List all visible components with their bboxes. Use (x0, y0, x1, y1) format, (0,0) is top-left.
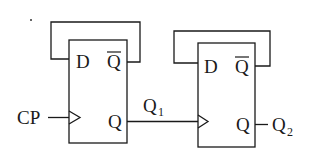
q2-label: Q 2 (272, 114, 293, 139)
ff1-d-label: D (76, 51, 90, 72)
stray-mark (30, 19, 32, 21)
svg-text:Q: Q (143, 95, 157, 116)
q1-label: Q 1 (143, 95, 164, 119)
svg-text:2: 2 (287, 125, 293, 139)
ff2-clock-triangle-icon (198, 115, 208, 128)
cp-label: CP (17, 107, 40, 128)
ff2-d-label: D (204, 56, 218, 77)
circuit-diagram: D Q Q CP Q 1 D Q Q Q 2 (0, 0, 314, 163)
flipflop-1: D Q Q (48, 22, 198, 143)
svg-text:1: 1 (158, 105, 164, 119)
ff1-clock-triangle-icon (69, 111, 80, 124)
ff2-q-label: Q (236, 114, 250, 135)
ff2-qbar-label: Q (235, 56, 249, 77)
svg-text:Q: Q (272, 114, 286, 135)
ff1-qbar-label: Q (107, 51, 121, 72)
ff1-q-label: Q (108, 111, 122, 132)
flipflop-2: D Q Q (174, 31, 270, 147)
